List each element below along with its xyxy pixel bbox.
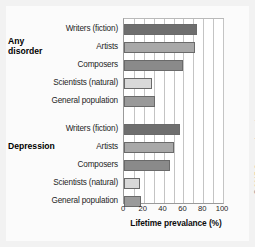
bar <box>124 142 174 153</box>
bar <box>124 96 155 107</box>
category-label: General population <box>0 96 118 105</box>
x-tick-label: 20 <box>139 204 147 213</box>
x-axis-label: Lifetime prevalance (%) <box>112 218 240 228</box>
bar <box>124 178 140 189</box>
x-axis-ticks: 020406080100 <box>123 204 223 216</box>
category-label: Scientists (natural) <box>0 78 118 87</box>
bar <box>124 160 170 171</box>
category-label: Writers (fiction) <box>0 124 118 133</box>
bar-row <box>124 96 223 107</box>
category-label: General population <box>0 196 118 205</box>
bar-row <box>124 142 223 153</box>
bar-row <box>124 178 223 189</box>
x-tick-label: 40 <box>158 204 166 213</box>
x-tick-label: 100 <box>216 204 229 213</box>
bar-row <box>124 60 223 71</box>
category-label: Scientists (natural) <box>0 178 118 187</box>
bar-row <box>124 78 223 89</box>
bar <box>124 60 183 71</box>
gridline <box>223 19 224 203</box>
group-title-any-disorder: Any disorder <box>8 37 78 56</box>
group-title-line-1: Any <box>8 36 24 46</box>
figure-container: Writers (fiction) Artists Composers Scie… <box>0 0 255 247</box>
x-tick-label: 0 <box>121 204 125 213</box>
category-label: Writers (fiction) <box>0 24 118 33</box>
category-label: Composers <box>0 60 118 69</box>
group-title-line-2: disorder <box>8 46 42 56</box>
bar-row <box>124 160 223 171</box>
plot-area <box>123 18 224 204</box>
copyright-notice: © 2017 Cengage Learning <box>254 112 255 194</box>
bar <box>124 42 195 53</box>
bar <box>124 78 152 89</box>
category-label: Composers <box>0 160 118 169</box>
x-tick-label: 60 <box>178 204 186 213</box>
bar-row <box>124 124 223 135</box>
x-tick-label: 80 <box>198 204 206 213</box>
bar-row <box>124 24 223 35</box>
bar <box>124 124 180 135</box>
bar <box>124 24 197 35</box>
bar-row <box>124 42 223 53</box>
group-title-depression: Depression <box>8 142 78 152</box>
